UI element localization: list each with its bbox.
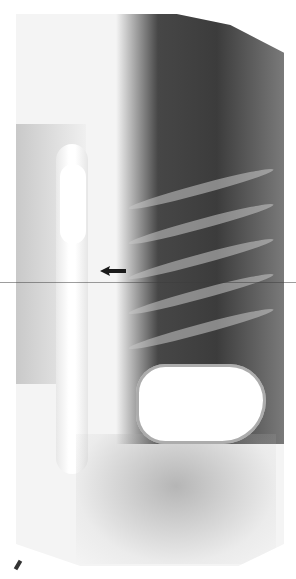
contrast-bolus bbox=[60, 164, 86, 244]
abdomen-region bbox=[76, 434, 276, 564]
arrow-left-icon bbox=[100, 266, 126, 276]
stomach-contrast bbox=[136, 364, 266, 444]
film-mark bbox=[14, 560, 22, 571]
film-line bbox=[0, 282, 296, 283]
xray-film bbox=[16, 14, 284, 566]
